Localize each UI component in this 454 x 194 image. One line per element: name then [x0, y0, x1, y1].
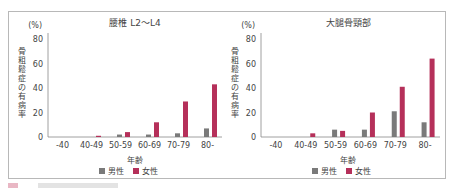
legend-label-male: 男性 — [108, 166, 124, 176]
bar-male — [204, 128, 209, 137]
bar-male — [175, 133, 180, 137]
x-tick-label: 50-59 — [324, 141, 347, 150]
bar-male — [362, 130, 367, 137]
legend-label-female: 女性 — [355, 166, 371, 176]
y-axis-label-char: 病 — [231, 100, 239, 110]
x-tick-label: -40 — [269, 141, 282, 150]
y-axis-label-char: 病 — [18, 100, 26, 110]
y-tick-label: 0 — [251, 133, 256, 142]
bar-male — [117, 135, 122, 137]
y-axis-label-char: 鬆 — [231, 64, 239, 74]
y-unit-label: (%) — [28, 21, 42, 30]
bar-female — [310, 133, 315, 137]
legend-label-male: 男性 — [321, 166, 337, 176]
y-axis-label-char: 率 — [18, 109, 26, 119]
bar-female — [430, 59, 435, 137]
legend-swatch-male — [312, 168, 318, 174]
y-tick-label: 20 — [246, 109, 256, 118]
x-tick-label: 40-49 — [294, 141, 317, 150]
x-tick-label: 50-59 — [109, 141, 132, 150]
x-axis-label: 年齢 — [340, 155, 356, 165]
y-axis-label-char: 率 — [231, 109, 239, 119]
y-tick-label: 60 — [33, 60, 43, 69]
legend-swatch-female — [346, 168, 352, 174]
y-tick-label: 60 — [246, 60, 256, 69]
y-axis-label-char: 症 — [18, 73, 26, 83]
figure-caption — [8, 183, 128, 191]
y-tick-label: 40 — [246, 84, 256, 93]
caption-marker — [8, 183, 18, 188]
y-axis-label-char: 粗 — [231, 55, 239, 65]
x-tick-label: 60-69 — [354, 141, 377, 150]
x-tick-label: 80- — [419, 141, 432, 150]
y-tick-label: 0 — [38, 133, 43, 142]
y-axis-label-char: 骨 — [18, 47, 26, 56]
y-axis-label-char: 骨 — [231, 47, 239, 56]
x-tick-label: 60-69 — [138, 141, 161, 150]
y-tick-label: 80 — [33, 35, 43, 44]
bar-female — [370, 113, 375, 138]
y-axis-label-char: 粗 — [18, 55, 26, 65]
bar-female — [183, 101, 188, 137]
x-tick-label: -40 — [56, 141, 69, 150]
bar-female — [212, 84, 217, 137]
bar-female — [154, 122, 159, 137]
chart-title: 大腿骨頸部 — [326, 17, 371, 28]
x-axis-label: 年齢 — [127, 155, 143, 165]
y-axis-label-char: 有 — [231, 91, 239, 101]
x-tick-label: 40-49 — [80, 141, 103, 150]
y-axis-label-char: 鬆 — [18, 64, 26, 74]
y-axis-label-char: の — [18, 83, 26, 92]
bar-female — [96, 136, 101, 137]
bar-female — [125, 132, 130, 137]
y-axis-label-char: の — [231, 83, 239, 92]
x-tick-label: 70-79 — [167, 141, 190, 150]
y-tick-label: 80 — [246, 35, 256, 44]
y-axis-label-char: 症 — [231, 73, 239, 83]
x-tick-label: 80- — [201, 141, 214, 150]
caption-text — [38, 183, 118, 188]
bar-male — [146, 135, 151, 137]
x-tick-label: 70-79 — [384, 141, 407, 150]
legend-label-female: 女性 — [142, 166, 158, 176]
bar-female — [400, 87, 405, 137]
y-axis-label-char: 有 — [18, 91, 26, 101]
bar-male — [332, 130, 337, 137]
y-unit-label: (%) — [241, 21, 255, 30]
y-tick-label: 20 — [33, 109, 43, 118]
chart-title: 腰椎 L2〜L4 — [109, 17, 161, 28]
bar-male — [392, 111, 397, 137]
legend-swatch-male — [99, 168, 105, 174]
bar-male — [422, 122, 427, 137]
bar-female — [340, 131, 345, 137]
y-tick-label: 40 — [33, 84, 43, 93]
legend-swatch-female — [133, 168, 139, 174]
chart-figure: 腰椎 L2〜L4(%)骨粗鬆症の有病率020406080-4040-4950-5… — [0, 0, 454, 194]
